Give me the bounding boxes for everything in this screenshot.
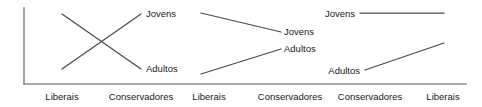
series-label-jovens-panel-3: Jovens <box>325 8 355 19</box>
axis-tick-label-6: Liberais <box>426 91 460 102</box>
series-label-jovens-panel-2: Jovens <box>284 26 314 37</box>
series-label-jovens-panel-1: Jovens <box>146 8 176 19</box>
interaction-plot-figure: Jovens Adultos Jovens Adultos Jovens Adu… <box>0 0 482 107</box>
axis-tick-label-1: Liberais <box>45 91 79 102</box>
axis-tick-label-5: Conservadores <box>338 91 403 102</box>
axis-tick-label-4: Conservadores <box>258 91 323 102</box>
series-label-adultos-panel-1: Adultos <box>146 63 178 74</box>
axis-tick-label-2: Conservadores <box>109 91 174 102</box>
line-adultos-panel-2 <box>201 49 281 74</box>
panel-flat-and-rising-lines <box>360 13 444 70</box>
series-label-adultos-panel-3: Adultos <box>328 65 360 76</box>
axis-tick-label-3: Liberais <box>192 91 226 102</box>
axis-frame <box>24 8 466 84</box>
line-jovens-panel-2 <box>201 13 281 32</box>
series-label-adultos-panel-2: Adultos <box>284 43 316 54</box>
line-adultos-panel-3 <box>365 43 444 70</box>
chart-canvas: Jovens Adultos Jovens Adultos Jovens Adu… <box>0 0 482 107</box>
panel-convergence-lines <box>201 13 281 74</box>
panel-crossover-lines <box>62 14 141 69</box>
